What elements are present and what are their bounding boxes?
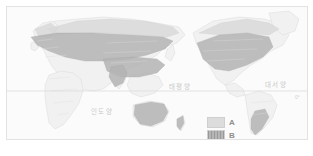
figure-world-map: 태평양 대서양 인도양 0° A B — [0, 0, 313, 156]
map-frame: 태평양 대서양 인도양 0° A B — [6, 6, 308, 140]
ocean-label-pacific: 태평양 — [169, 81, 191, 91]
legend-label-b: B — [229, 131, 235, 140]
legend-swatch-a — [207, 117, 225, 128]
ocean-label-indian: 인도양 — [91, 106, 113, 116]
equator-degree-label: 0° — [295, 94, 300, 100]
world-map-graphic — [7, 7, 307, 139]
legend-item-a: A — [207, 117, 235, 128]
legend-swatch-b — [207, 130, 225, 140]
ocean-label-atlantic: 대서양 — [265, 79, 287, 89]
legend-item-b: B — [207, 130, 235, 140]
legend-label-a: A — [229, 118, 235, 127]
map-legend: A B — [207, 117, 235, 140]
